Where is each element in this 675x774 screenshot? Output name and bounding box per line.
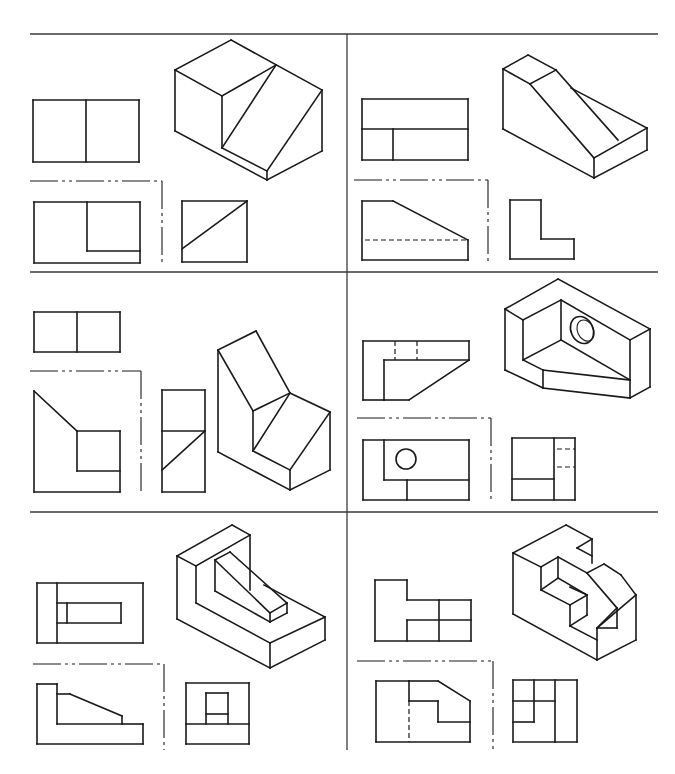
exercise-ex-5 — [33, 525, 325, 750]
iso-edge — [570, 595, 587, 605]
projection-corner-line — [357, 418, 491, 500]
iso-edge — [267, 151, 322, 180]
iso-edge — [570, 626, 597, 640]
iso-edge — [270, 617, 325, 643]
drawing-canvas — [0, 0, 675, 774]
side-view — [182, 201, 247, 262]
isometric-view — [503, 55, 647, 178]
iso-edge — [218, 350, 253, 411]
iso-edge — [270, 640, 325, 668]
iso-edge — [541, 590, 570, 605]
iso-edge — [503, 69, 530, 84]
iso-edge — [513, 525, 566, 553]
front-view — [375, 580, 471, 641]
isometric-view — [505, 279, 650, 398]
iso-edge — [523, 340, 561, 360]
iso-edge — [215, 560, 270, 613]
iso-edge — [528, 55, 556, 70]
iso-edge — [290, 393, 330, 412]
iso-edge — [541, 578, 558, 590]
iso-edge — [175, 40, 231, 70]
isometric-view — [175, 40, 322, 180]
hole-inner-ellipse — [574, 317, 598, 344]
side-view — [186, 683, 249, 744]
drawing-sheet — [0, 0, 675, 774]
iso-edge — [232, 525, 250, 535]
iso-edge — [256, 331, 290, 393]
exercise-ex-3 — [30, 312, 330, 492]
iso-edge — [513, 614, 597, 660]
iso-edge — [218, 452, 290, 490]
iso-edge — [597, 608, 617, 628]
top-view — [37, 684, 143, 744]
iso-edge — [222, 65, 276, 148]
exercise-panels — [30, 40, 650, 750]
hole-circle — [396, 449, 416, 469]
projection-corner-line — [357, 661, 493, 750]
iso-edge — [270, 613, 287, 622]
side-view — [510, 200, 574, 259]
iso-edge — [505, 309, 523, 320]
iso-edge — [222, 65, 276, 96]
front-view — [362, 99, 468, 160]
iso-edge — [523, 360, 543, 370]
side-view — [512, 438, 575, 500]
exercise-ex-4 — [357, 279, 650, 500]
projection-corner-line — [30, 181, 162, 266]
exercise-ex-2 — [354, 55, 647, 262]
iso-edge — [571, 88, 647, 128]
front-view — [33, 100, 139, 162]
iso-edge — [175, 70, 222, 96]
exercise-ex-6 — [357, 525, 636, 750]
visible-edge — [409, 360, 469, 400]
visible-edge — [34, 391, 77, 431]
iso-edge — [558, 557, 587, 573]
side-view — [513, 680, 577, 742]
iso-edge — [543, 388, 630, 398]
iso-edge — [218, 331, 256, 350]
iso-edge — [513, 553, 541, 567]
iso-edge — [175, 131, 267, 180]
projection-corner-line — [33, 664, 164, 750]
visible-edge — [393, 201, 468, 240]
iso-edge — [503, 55, 528, 69]
iso-edge — [566, 525, 592, 539]
iso-edge — [196, 603, 270, 643]
top-view — [34, 391, 120, 492]
top-view — [363, 440, 469, 500]
iso-edge — [503, 129, 594, 178]
iso-edge — [604, 564, 621, 575]
visible-edge — [162, 431, 205, 470]
iso-edge — [556, 70, 618, 140]
iso-edge — [230, 552, 287, 603]
top-view — [376, 681, 470, 742]
iso-edge — [630, 329, 650, 340]
isometric-view — [218, 331, 330, 490]
isometric-view — [177, 525, 325, 668]
iso-edge — [621, 575, 636, 595]
top-view — [34, 202, 140, 263]
iso-edge — [577, 548, 592, 556]
isometric-view — [513, 525, 636, 660]
iso-edge — [290, 470, 330, 490]
iso-edge — [570, 587, 587, 595]
iso-edge — [253, 451, 290, 470]
iso-edge — [177, 556, 196, 566]
iso-edge — [570, 615, 587, 626]
iso-edge — [541, 557, 558, 567]
iso-edge — [597, 640, 636, 660]
iso-edge — [577, 539, 592, 548]
top-view — [362, 201, 468, 260]
iso-edge — [177, 619, 270, 668]
iso-edge — [177, 525, 232, 556]
iso-edge — [630, 387, 650, 398]
iso-edge — [505, 370, 543, 388]
front-view — [34, 312, 120, 352]
iso-edge — [543, 370, 630, 380]
front-view — [363, 341, 469, 400]
visible-edge — [438, 681, 470, 701]
iso-edge — [587, 564, 604, 573]
iso-edge — [505, 279, 558, 309]
side-view — [162, 390, 205, 492]
iso-edge — [270, 603, 287, 613]
